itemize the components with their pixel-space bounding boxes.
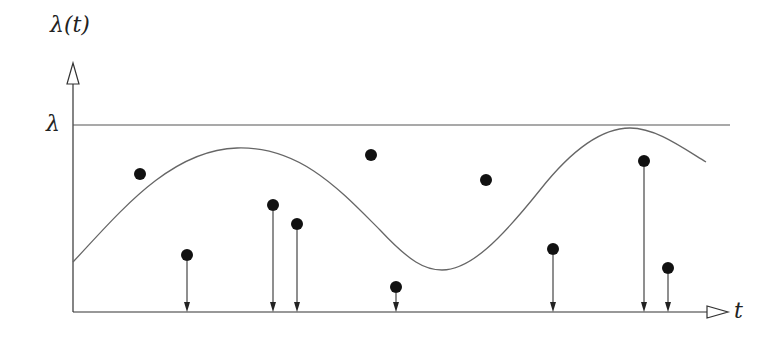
down-arrow-icon (393, 302, 399, 312)
down-arrow-icon (294, 302, 300, 312)
accepted-point (390, 281, 402, 293)
y-axis-label: λ(t) (50, 12, 90, 37)
down-arrow-icon (184, 302, 190, 312)
accepted-event (390, 281, 402, 312)
accepted-event (267, 199, 279, 312)
accepted-event (662, 262, 674, 312)
accepted-point (662, 262, 674, 274)
accepted-event (291, 218, 303, 312)
accepted-event (547, 243, 559, 312)
down-arrow-icon (665, 302, 671, 312)
accepted-event (181, 249, 193, 312)
x-axis-label: t (734, 298, 743, 323)
accepted-event (638, 155, 650, 312)
rejected-point (480, 174, 492, 186)
accepted-point (291, 218, 303, 230)
accepted-point (181, 249, 193, 261)
down-arrow-icon (270, 302, 276, 312)
down-arrow-icon (641, 302, 647, 312)
max-rate-label: λ (46, 111, 60, 136)
accepted-point (547, 243, 559, 255)
thinning-diagram (0, 0, 778, 344)
intensity-curve (73, 128, 706, 270)
accepted-point (638, 155, 650, 167)
rejected-point (365, 149, 377, 161)
accepted-point (267, 199, 279, 211)
down-arrow-icon (550, 302, 556, 312)
rejected-point (134, 168, 146, 180)
y-axis-arrowhead-icon (67, 63, 79, 84)
rejected-points (134, 149, 492, 186)
accepted-points (181, 155, 674, 312)
x-axis-arrowhead-icon (707, 306, 728, 318)
